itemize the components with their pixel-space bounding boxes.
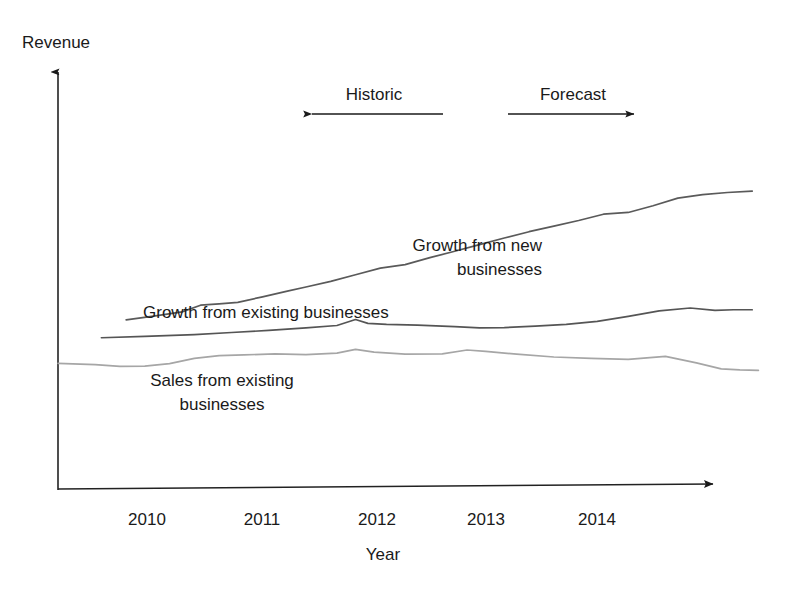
y-axis-title: Revenue [22,33,90,52]
historic-label: Historic [346,85,403,104]
x-axis-title: Year [366,545,401,564]
series-line-growth-from-new-businesses [126,191,752,320]
series-label-growth-new-line2: businesses [457,260,542,279]
x-tick-label-2013: 2013 [467,510,505,529]
series-label-growth-existing: Growth from existing businesses [143,303,389,322]
series-label-sales-existing-line2: businesses [179,395,264,414]
series-label-sales-existing-line1: Sales from existing [150,371,294,390]
x-axis-line [58,484,713,489]
series-line-sales-from-existing-businesses [58,349,758,370]
series-group [58,191,758,370]
x-tick-label-2014: 2014 [578,510,616,529]
forecast-label: Forecast [540,85,606,104]
x-tick-label-2011: 2011 [244,510,281,529]
x-tick-label-2010: 2010 [128,510,166,529]
revenue-growth-chart: Revenue Year Historic Forecast Growth fr… [0,0,802,600]
x-tick-label-2012: 2012 [358,510,396,529]
series-label-growth-new-line1: Growth from new [413,236,543,255]
chart-canvas: Revenue Year Historic Forecast Growth fr… [0,0,802,600]
